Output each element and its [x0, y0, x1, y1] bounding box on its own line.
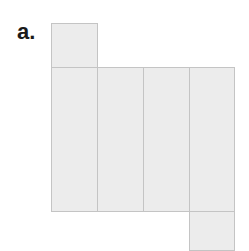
- net-face-rect-4: [189, 67, 235, 212]
- net-face-bottom-square: [189, 211, 235, 251]
- net-face-rect-3: [143, 67, 190, 212]
- net-face-top-square: [51, 23, 98, 68]
- figure-label: a.: [17, 19, 35, 45]
- net-face-rect-1: [51, 67, 98, 212]
- net-face-rect-2: [97, 67, 144, 212]
